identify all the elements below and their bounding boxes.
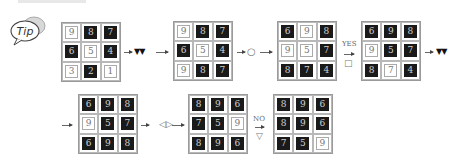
grid-cell: 6 <box>313 95 332 114</box>
grid-cell: 5 <box>193 41 212 60</box>
cell-value: 6 <box>65 45 78 58</box>
cell-value: 7 <box>121 117 134 130</box>
cell-value: 9 <box>211 137 224 150</box>
grid-5: 698957698 <box>78 94 138 154</box>
grid-cell: 7 <box>297 61 316 80</box>
arrow <box>62 125 72 126</box>
grid-cell: 8 <box>317 22 336 41</box>
grid-2: 987654987 <box>173 21 233 81</box>
cell-value: 5 <box>300 44 313 57</box>
grid-cell: 5 <box>208 114 227 133</box>
cell-value: 7 <box>104 26 117 39</box>
grid-cell: 7 <box>274 134 293 153</box>
grid-cell: 7 <box>401 41 420 60</box>
cell-value: 7 <box>216 64 229 77</box>
cell-value: 8 <box>192 98 205 111</box>
cell-value: 7 <box>320 44 333 57</box>
cell-value: 6 <box>82 137 95 150</box>
grid-cell: 9 <box>98 134 117 153</box>
grid-cell: 9 <box>174 22 193 41</box>
cell-value: 9 <box>296 117 309 130</box>
cell-value: 8 <box>404 25 417 38</box>
grid-cell: 6 <box>278 22 297 41</box>
grid-4: 698957874 <box>361 21 421 81</box>
cell-value: 5 <box>296 137 309 150</box>
cell-value: 1 <box>104 65 117 78</box>
grid-cell: 8 <box>189 95 208 114</box>
no-label: NO <box>253 115 265 123</box>
grid-cell: 4 <box>317 61 336 80</box>
grid-cell: 8 <box>401 22 420 41</box>
grid-cell: 6 <box>79 134 98 153</box>
arrow <box>255 127 264 128</box>
double-triangle-icon: ▼▼ <box>134 47 144 56</box>
grid-cell: 8 <box>81 23 100 42</box>
grid-cell: 9 <box>278 41 297 60</box>
cell-value: 9 <box>211 98 224 111</box>
cell-value: 8 <box>277 98 290 111</box>
arrow <box>156 52 168 53</box>
cell-value: 7 <box>404 44 417 57</box>
cell-value: 6 <box>231 137 244 150</box>
cell-value: 4 <box>216 44 229 57</box>
grid-cell: 8 <box>274 95 293 114</box>
tip-bubble-icon: Tip <box>8 14 48 46</box>
cell-value: 6 <box>281 25 294 38</box>
grid-cell: 8 <box>118 95 137 114</box>
cell-value: 9 <box>365 44 378 57</box>
cell-value: 8 <box>192 137 205 150</box>
grid-cell: 8 <box>118 134 137 153</box>
cell-value: 7 <box>384 64 397 77</box>
cell-value: 9 <box>384 25 397 38</box>
cell-value: 5 <box>101 117 114 130</box>
double-triangle-icon: ▼▼ <box>436 47 446 56</box>
cell-value: 5 <box>196 44 209 57</box>
cell-value: 3 <box>65 65 78 78</box>
arrow <box>425 52 433 53</box>
cell-value: 9 <box>177 64 190 77</box>
cell-value: 9 <box>300 25 313 38</box>
cell-value: 8 <box>196 25 209 38</box>
grid-cell: 8 <box>193 22 212 41</box>
grid-cell: 8 <box>274 114 293 133</box>
cell-value: 9 <box>82 117 95 130</box>
grid-cell: 9 <box>174 61 193 80</box>
mirror-icon: ◁▷ <box>159 119 173 129</box>
cell-value: 4 <box>104 45 117 58</box>
grid-cell: 3 <box>62 62 81 81</box>
grid-cell: 8 <box>193 61 212 80</box>
cell-value: 5 <box>84 45 97 58</box>
grid-cell: 5 <box>98 114 117 133</box>
grid-cell: 7 <box>189 114 208 133</box>
grid-1: 987654321 <box>61 22 121 82</box>
grid-cell: 8 <box>189 134 208 153</box>
grid-cell: 6 <box>362 22 381 41</box>
svg-text:Tip: Tip <box>17 25 34 38</box>
grid-cell: 5 <box>381 41 400 60</box>
grid-cell: 8 <box>362 61 381 80</box>
grid-cell: 6 <box>313 114 332 133</box>
grid-cell: 9 <box>313 134 332 153</box>
cell-value: 8 <box>121 137 134 150</box>
grid-cell: 8 <box>278 61 297 80</box>
grid-cell: 7 <box>381 61 400 80</box>
cell-value: 7 <box>192 117 205 130</box>
grid-3: 698957874 <box>277 21 337 81</box>
grid-cell: 4 <box>213 41 232 60</box>
grid-cell: 9 <box>79 114 98 133</box>
cell-value: 5 <box>211 117 224 130</box>
cell-value: 7 <box>277 137 290 150</box>
cell-value: 4 <box>404 64 417 77</box>
grid-cell: 9 <box>297 22 316 41</box>
grid-cell: 1 <box>101 62 120 81</box>
arrow <box>237 52 245 53</box>
cell-value: 8 <box>277 117 290 130</box>
grid-cell: 9 <box>381 22 400 41</box>
cell-value: 8 <box>196 64 209 77</box>
circle-icon: ○ <box>247 46 256 57</box>
down-triangle-icon: ▽ <box>256 131 263 141</box>
arrow <box>172 125 184 126</box>
cell-value: 9 <box>101 98 114 111</box>
grid-cell: 6 <box>62 42 81 61</box>
header-bar <box>18 0 86 3</box>
